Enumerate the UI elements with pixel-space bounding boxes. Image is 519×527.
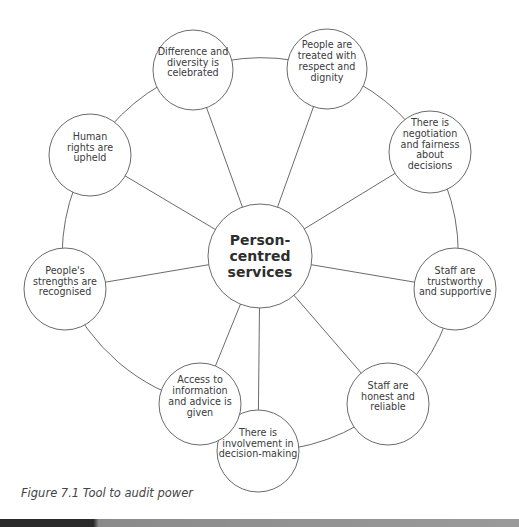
node-trustworthy: Staff aretrustworthyand supportive — [414, 248, 496, 330]
node-label-line: decision-making — [219, 448, 298, 459]
node-label-line: and advice is — [168, 396, 231, 407]
node-label-line: Staff are — [435, 265, 476, 276]
node-label-line: dignity — [310, 72, 343, 83]
node-label-line: Staff are — [368, 380, 409, 391]
node-label-line: upheld — [74, 152, 107, 163]
node-label-line: There is — [410, 117, 449, 128]
node-honest: Staff arehonest andreliable — [347, 363, 429, 445]
node-label-line: respect and — [299, 61, 356, 72]
node-label-line: negotiation — [403, 128, 458, 139]
node-respect: People aretreated withrespect anddignity — [287, 29, 367, 109]
node-negotiation: There isnegotiationand fairnessaboutdeci… — [389, 111, 471, 193]
node-strengths: People'sstrengths arerecognised — [24, 248, 106, 330]
node-label-line: strengths are — [33, 276, 97, 287]
node-label-line: celebrated — [167, 67, 218, 78]
node-label-line: rights are — [67, 142, 113, 153]
figure-caption: Figure 7.1 Tool to audit power — [21, 486, 193, 500]
node-label-line: treated with — [298, 50, 356, 61]
node-label-line: and supportive — [419, 286, 491, 297]
node-access: Access toinformationand advice isgiven — [159, 363, 241, 445]
page-edge-bar — [0, 519, 519, 527]
node-label-line: There is — [238, 427, 277, 438]
node-label-line: diversity is — [167, 57, 219, 68]
node-label-line: involvement in — [222, 438, 293, 449]
person-centred-diagram: Difference anddiversity iscelebratedPeop… — [0, 0, 519, 527]
node-label-line: reliable — [370, 401, 406, 412]
node-label-line: Difference and — [158, 46, 229, 57]
node-label-line: given — [187, 407, 213, 418]
node-label-line: People are — [302, 39, 353, 50]
node-label-line: recognised — [39, 286, 92, 297]
node-label-line: People's — [45, 265, 85, 276]
node-human-rights: Humanrights areupheld — [49, 114, 131, 196]
node-label-line: honest and — [361, 391, 415, 402]
node-label-line: decisions — [408, 160, 453, 171]
node-label-line: trustworthy — [427, 276, 483, 287]
node-label-line: Human — [73, 131, 108, 142]
node-difference: Difference anddiversity iscelebrated — [153, 30, 233, 110]
node-label-line: Access to — [177, 374, 223, 385]
node-label-line: information — [172, 385, 227, 396]
node-label-line: about — [416, 149, 444, 160]
center-label-line: Person- — [230, 232, 291, 248]
center-label-line: centred — [230, 248, 291, 264]
center-node: Person-centredservices — [208, 204, 312, 308]
node-label-line: and fairness — [401, 139, 460, 150]
center-label-line: services — [228, 264, 293, 280]
